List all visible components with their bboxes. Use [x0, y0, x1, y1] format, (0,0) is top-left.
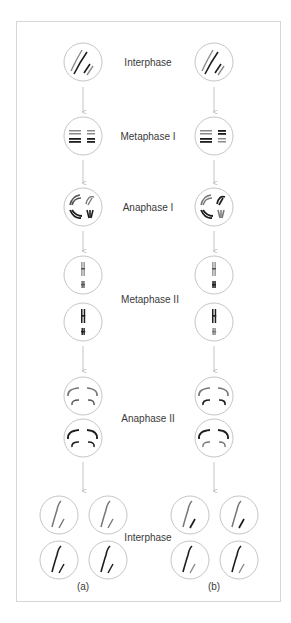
stage-label-metaphase-1: Metaphase I: [120, 131, 175, 142]
cell-metaphase-2-a-top: [64, 256, 102, 294]
cell-anaphase-2-a-bottom: [64, 419, 102, 457]
stage-label-interphase-end: Interphase: [124, 532, 171, 543]
cell-anaphase-2-b-top: [195, 377, 233, 415]
column-caption-a: (a): [77, 581, 89, 592]
cell-interphase-end-a-3: [40, 541, 78, 579]
stage-label-anaphase-2: Anaphase II: [121, 413, 174, 424]
cell-interphase-b: [195, 43, 233, 81]
cell-anaphase-1-b: [195, 188, 233, 226]
cell-interphase-end-a-2: [89, 496, 127, 534]
column-b: [171, 43, 258, 579]
column-a: [40, 43, 127, 579]
cell-metaphase-2-b-bottom: [195, 303, 233, 341]
cell-interphase-end-a-4: [89, 541, 127, 579]
cell-metaphase-1-b: [195, 117, 233, 155]
cell-metaphase-2-b-top: [195, 256, 233, 294]
cell-interphase-end-b-2: [220, 496, 258, 534]
cell-anaphase-1-a: [64, 188, 102, 226]
cell-interphase-end-a-1: [40, 496, 78, 534]
stage-label-anaphase-1: Anaphase I: [123, 202, 174, 213]
meiosis-diagram: [0, 0, 291, 623]
cell-metaphase-1-a: [64, 117, 102, 155]
cell-interphase-end-b-1: [171, 496, 209, 534]
cell-anaphase-2-a-top: [64, 377, 102, 415]
column-caption-b: (b): [208, 581, 220, 592]
cell-interphase-a: [64, 43, 102, 81]
cell-interphase-end-b-3: [171, 541, 209, 579]
cell-interphase-end-b-4: [220, 541, 258, 579]
stage-label-metaphase-2: Metaphase II: [121, 294, 179, 305]
cell-anaphase-2-b-bottom: [195, 419, 233, 457]
stage-label-interphase-start: Interphase: [124, 57, 171, 68]
cell-metaphase-2-a-bottom: [64, 303, 102, 341]
